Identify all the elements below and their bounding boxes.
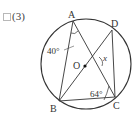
segment-dc	[112, 30, 115, 97]
center-point	[83, 64, 86, 67]
leader-40	[64, 46, 74, 50]
label-c: C	[113, 100, 120, 111]
angle-label-x: x	[102, 53, 107, 63]
geometry-figure: A D B C O 40° 64° x	[0, 0, 133, 124]
label-b: B	[50, 103, 57, 114]
angle-label-40: 40°	[47, 46, 60, 56]
label-o: O	[73, 60, 80, 71]
circle-o	[41, 19, 131, 109]
label-d: D	[111, 18, 118, 29]
angle-arc-a	[71, 31, 78, 34]
label-a: A	[68, 9, 76, 20]
segment-ac	[73, 21, 115, 97]
angle-label-64: 64°	[90, 89, 103, 99]
segment-ab	[59, 21, 73, 101]
segment-bc	[59, 97, 115, 101]
